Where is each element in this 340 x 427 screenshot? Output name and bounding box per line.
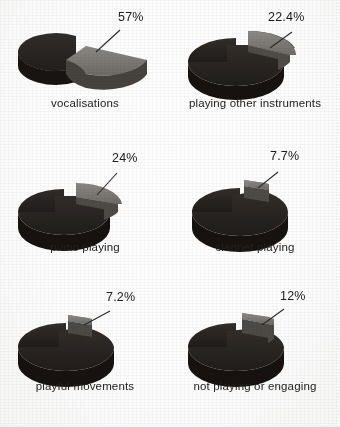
- pie-caption-clarinet-playing: clarinet playing: [170, 241, 340, 253]
- pie-chart-clarinet-playing: 7.7% clarinet playing: [170, 140, 340, 285]
- pie-chart-piano-playing: 24% piano playing: [0, 140, 170, 285]
- pie-value-label-not-playing-or-engaging: 12%: [280, 289, 306, 303]
- pie-caption-vocalisations: vocalisations: [0, 97, 170, 109]
- leader-line-vocalisations: [96, 30, 120, 52]
- pie-caption-piano-playing: piano playing: [0, 241, 170, 253]
- pie-chart-vocalisations: 57% vocalisations: [0, 0, 170, 140]
- pie-value-label-playing-other-instruments: 22.4%: [268, 10, 304, 24]
- pie-chart-playing-other-instruments: 22.4% playing other instruments: [170, 0, 340, 140]
- pie-chart-not-playing-or-engaging-graphic: [170, 285, 340, 427]
- slice-highlight-vocalisations: [66, 46, 147, 90]
- pie-value-label-clarinet-playing: 7.7%: [270, 149, 299, 163]
- pie-value-label-piano-playing: 24%: [112, 151, 138, 165]
- pie-chart-playful-movements: 7.2% playful movements: [0, 285, 170, 427]
- pie-value-label-vocalisations: 57%: [118, 10, 144, 24]
- pie-caption-not-playing-or-engaging: not playing or engaging: [170, 380, 340, 392]
- pie-chart-piano-playing-graphic: [0, 140, 170, 285]
- pie-chart-playing-other-instruments-graphic: [170, 0, 340, 140]
- slice-remainder-playful-movements: [18, 323, 114, 387]
- pie-value-label-playful-movements: 7.2%: [106, 290, 135, 304]
- figure-page: 57% vocalisations: [0, 0, 340, 427]
- pie-caption-playing-other-instruments: playing other instruments: [170, 97, 340, 109]
- pie-chart-playful-movements-graphic: [0, 285, 170, 427]
- pie-chart-not-playing-or-engaging: 12% not playing or engaging: [170, 285, 340, 427]
- pie-caption-playful-movements: playful movements: [0, 380, 170, 392]
- pie-chart-grid: 57% vocalisations: [0, 0, 340, 427]
- pie-chart-clarinet-playing-graphic: [170, 140, 340, 285]
- pie-chart-vocalisations-graphic: [0, 0, 170, 140]
- slice-remainder-vocalisations: [18, 33, 76, 85]
